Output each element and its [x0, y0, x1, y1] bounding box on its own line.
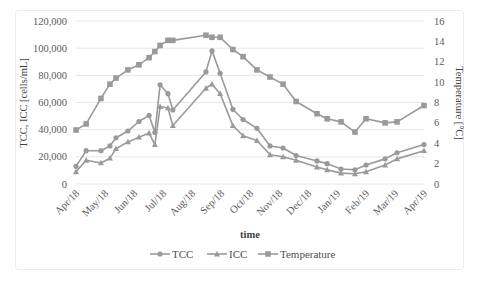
circle-marker [363, 162, 368, 167]
circle-marker [158, 82, 163, 87]
square-marker [203, 32, 209, 38]
square-marker [240, 54, 246, 60]
line-chart: 020,00040,00060,00080,000100,000120,000 … [0, 0, 481, 283]
circle-marker [146, 113, 151, 118]
y-tick-label: 20,000 [38, 151, 67, 162]
x-tick-label: Jul/18 [142, 188, 168, 214]
x-tick-label: Feb/19 [343, 188, 371, 216]
legend-item-tcc: TCC [150, 248, 193, 260]
triangle-marker [209, 81, 215, 87]
x-tick-label: Nov/18 [254, 188, 284, 218]
y-tick-label: 120,000 [33, 16, 67, 27]
square-marker [280, 81, 286, 87]
circle-marker [125, 128, 130, 133]
square-marker [338, 119, 344, 125]
legend-item-temperature: Temperature [258, 248, 336, 260]
x-tick-label: Apr/19 [401, 188, 430, 217]
square-marker [324, 116, 330, 122]
y-tick-label: 80,000 [38, 70, 67, 81]
circle-marker [113, 135, 118, 140]
square-marker [352, 129, 358, 135]
square-marker [265, 251, 271, 257]
square-marker [83, 121, 89, 127]
x-tick-label: Apr/18 [53, 188, 82, 217]
circle-marker [314, 158, 319, 163]
triangle-marker [152, 141, 158, 147]
circle-marker [240, 117, 245, 122]
y2-tick-label: 2 [434, 158, 439, 169]
circle-marker [267, 143, 272, 148]
circle-marker [170, 107, 175, 112]
y-tick-label: 60,000 [38, 97, 67, 108]
circle-marker [165, 91, 170, 96]
circle-marker [394, 150, 399, 155]
y2-tick-label: 4 [434, 138, 440, 149]
x-axis-title: time [240, 229, 260, 240]
triangle-marker [230, 122, 236, 128]
square-marker [107, 81, 113, 87]
x-tick-label: Jan/19 [315, 188, 342, 215]
right-y-axis-title: Temperature [°C] [454, 66, 465, 140]
legend-item-icc: ICC [207, 248, 247, 260]
square-marker [314, 111, 320, 117]
x-tick-label: May/18 [80, 188, 111, 219]
circle-marker [230, 107, 235, 112]
circle-marker [280, 145, 285, 150]
y-tick-label: 100,000 [33, 43, 67, 54]
square-marker [230, 47, 236, 53]
circle-marker [203, 69, 208, 74]
circle-marker [157, 251, 162, 256]
square-marker [293, 99, 299, 105]
series-lines [73, 32, 427, 176]
x-tick-label: Oct/18 [227, 188, 255, 216]
circle-marker [98, 148, 103, 153]
square-marker [209, 35, 215, 41]
x-tick-label: Jun/18 [112, 188, 140, 216]
square-marker [98, 96, 104, 102]
circle-marker [73, 164, 78, 169]
left-y-axis-ticks: 020,00040,00060,00080,000100,000120,000 [33, 16, 67, 190]
square-marker [152, 49, 158, 55]
circle-marker [136, 119, 141, 124]
square-marker [170, 38, 176, 44]
square-marker [113, 75, 119, 81]
square-marker [394, 119, 400, 125]
y-tick-label: 40,000 [38, 124, 67, 135]
series-tcc [73, 48, 426, 172]
y2-tick-label: 0 [434, 179, 439, 190]
series-line [76, 35, 424, 132]
circle-marker [218, 71, 223, 76]
y2-tick-label: 10 [434, 77, 445, 88]
circle-marker [84, 148, 89, 153]
triangle-marker [421, 148, 427, 154]
y2-tick-label: 12 [434, 56, 445, 67]
gridlines [76, 21, 424, 184]
circle-marker [325, 161, 330, 166]
square-marker [363, 116, 369, 122]
left-y-axis-title: TCC, ICC [cells/mL] [18, 58, 29, 148]
triangle-marker [146, 130, 152, 136]
circle-marker [383, 156, 388, 161]
legend-label: ICC [229, 248, 247, 260]
x-tick-label: Dec/18 [284, 188, 313, 217]
y2-tick-label: 8 [434, 97, 439, 108]
square-marker [146, 55, 152, 61]
square-marker [125, 67, 131, 73]
square-marker [267, 74, 273, 80]
square-marker [157, 43, 163, 49]
square-marker [165, 38, 171, 44]
x-axis-ticks: Apr/18May/18Jun/18Jul/18Aug/18Sep/18Oct/… [53, 188, 430, 219]
square-marker [421, 103, 427, 109]
y2-tick-label: 16 [434, 16, 445, 27]
legend: TCCICCTemperature [150, 248, 336, 260]
circle-marker [209, 48, 214, 53]
square-marker [254, 67, 260, 73]
y2-tick-label: 6 [434, 117, 439, 128]
x-tick-label: Sep/18 [198, 188, 226, 216]
circle-marker [421, 142, 426, 147]
y2-tick-label: 14 [434, 36, 445, 47]
square-marker [217, 35, 223, 41]
circle-marker [254, 126, 259, 131]
square-marker [73, 127, 79, 133]
legend-label: Temperature [280, 248, 336, 260]
